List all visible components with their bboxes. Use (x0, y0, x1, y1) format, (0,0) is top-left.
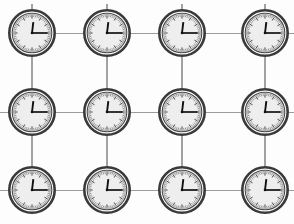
clock-center-hub (31, 32, 34, 35)
clock-hour-hand (182, 179, 183, 190)
clock-hour-hand (32, 101, 33, 112)
clock-icon: 12:15 (9, 167, 54, 212)
clock-icon: 12:15 (9, 10, 54, 55)
clock-icon: 12:15 (159, 89, 204, 134)
clock-center-hub (181, 189, 184, 192)
clock-center-hub (31, 111, 34, 114)
clock-icon: 12:15 (242, 89, 287, 134)
clock-icon: 12:15 (159, 167, 204, 212)
clock-icon: 12:15 (9, 89, 54, 134)
clock-hour-hand (182, 101, 183, 112)
clock-icon: 12:15 (242, 167, 287, 212)
clock-center-hub (264, 189, 267, 192)
clock-hour-hand (107, 22, 108, 33)
clock-hour-hand (107, 101, 108, 112)
clock-icon: 12:15 (84, 167, 129, 212)
clock-center-hub (106, 189, 109, 192)
clock-center-hub (264, 111, 267, 114)
clock-icon: 12:15 (84, 89, 129, 134)
clock-hour-hand (32, 22, 33, 33)
clock-hour-hand (107, 179, 108, 190)
clock-hour-hand (32, 179, 33, 190)
clock-center-hub (106, 111, 109, 114)
clock-icon: 12:15 (242, 10, 287, 55)
clock-center-hub (31, 189, 34, 192)
clock-hour-hand (265, 22, 266, 33)
clock-grid-canvas: 12:1512:1512:1512:1512:1512:1512:1512:15… (0, 0, 294, 224)
clock-icon: 12:15 (84, 10, 129, 55)
clock-center-hub (264, 32, 267, 35)
clock-center-hub (181, 111, 184, 114)
clock-hour-hand (265, 179, 266, 190)
clock-hour-hand (265, 101, 266, 112)
clock-hour-hand (182, 22, 183, 33)
clock-center-hub (181, 32, 184, 35)
clock-icon: 12:15 (159, 10, 204, 55)
clock-center-hub (106, 32, 109, 35)
clock-grid-scene: 12:1512:1512:1512:1512:1512:1512:1512:15… (0, 0, 294, 224)
